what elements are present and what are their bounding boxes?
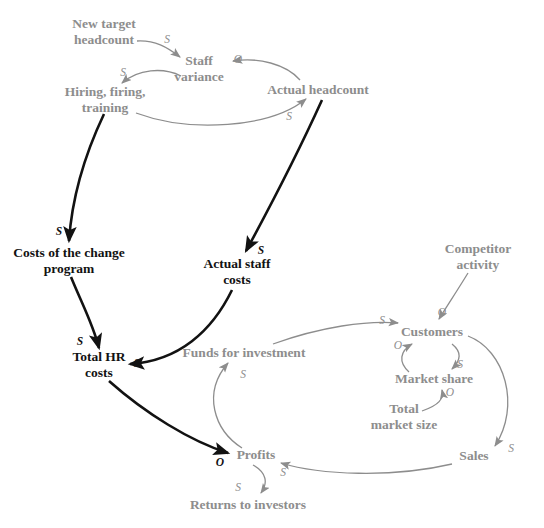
polarity-actual-headcount-to-staff-variance: O [234, 53, 242, 65]
polarity-customers-to-sales: S [508, 442, 514, 454]
edge-market-share-to-customers [402, 344, 412, 372]
edge-profits-to-funds-for-investment [214, 363, 242, 448]
node-returns-to-investors[interactable]: Returns to investors [190, 497, 306, 513]
node-total-market-size[interactable]: Total market size [371, 401, 437, 433]
node-sales[interactable]: Sales [459, 448, 488, 464]
node-total-hr-costs[interactable]: Total HR costs [72, 349, 125, 381]
polarity-profits-to-funds-for-investment: S [240, 368, 246, 380]
edge-profits-to-returns-to-investors [253, 465, 265, 493]
polarity-actual-headcount-to-actual-staff-costs: S [258, 244, 264, 256]
node-funds-for-investment[interactable]: Funds for investment [183, 345, 306, 361]
polarity-competitor-activity-to-customers: O [438, 306, 446, 318]
node-customers[interactable]: Customers [401, 324, 463, 340]
polarity-sales-to-profits: S [280, 466, 286, 478]
edge-actual-headcount-to-actual-staff-costs [246, 100, 322, 251]
node-staff-variance[interactable]: Staff variance [174, 53, 224, 85]
node-actual-headcount[interactable]: Actual headcount [267, 82, 369, 98]
edge-staff-variance-to-hiring-firing-training [122, 71, 181, 83]
node-new-target-headcount[interactable]: New target headcount [72, 16, 135, 48]
causal-loop-diagram: New target headcountStaff varianceActual… [0, 0, 544, 528]
polarity-profits-to-returns-to-investors: S [235, 481, 241, 493]
polarity-market-share-to-customers: O [394, 339, 402, 351]
polarity-costs-of-the-change-program-to-total-hr-costs: S [77, 335, 83, 347]
edge-hiring-firing-training-to-actual-headcount [136, 99, 306, 125]
node-costs-of-the-change-program[interactable]: Costs of the change program [13, 245, 124, 277]
edge-costs-of-the-change-program-to-total-hr-costs [71, 277, 99, 348]
node-market-share[interactable]: Market share [395, 371, 473, 387]
polarity-actual-staff-costs-to-total-hr-costs: S [134, 357, 140, 369]
edge-total-hr-costs-to-profits [109, 381, 228, 453]
polarity-staff-variance-to-hiring-firing-training: S [120, 66, 126, 78]
polarity-new-target-headcount-to-staff-variance: S [164, 33, 170, 45]
polarity-hiring-firing-training-to-actual-headcount: S [286, 110, 292, 122]
edge-customers-to-sales [468, 336, 508, 446]
edge-sales-to-profits [281, 463, 452, 473]
node-hiring-firing-training[interactable]: Hiring, firing, training [65, 84, 146, 116]
edge-hiring-firing-training-to-costs-of-the-change-program [69, 114, 104, 241]
edge-actual-headcount-to-staff-variance [233, 60, 300, 80]
polarity-funds-for-investment-to-customers: S [379, 314, 385, 326]
polarity-total-hr-costs-to-profits: O [216, 456, 224, 468]
polarity-total-market-size-to-market-share: O [446, 386, 454, 398]
polarity-hiring-firing-training-to-costs-of-the-change-program: S [56, 225, 62, 237]
node-competitor-activity[interactable]: Competitor activity [445, 241, 512, 273]
polarity-customers-to-market-share: S [457, 358, 463, 370]
node-profits[interactable]: Profits [237, 447, 276, 463]
node-actual-staff-costs[interactable]: Actual staff costs [203, 256, 270, 288]
